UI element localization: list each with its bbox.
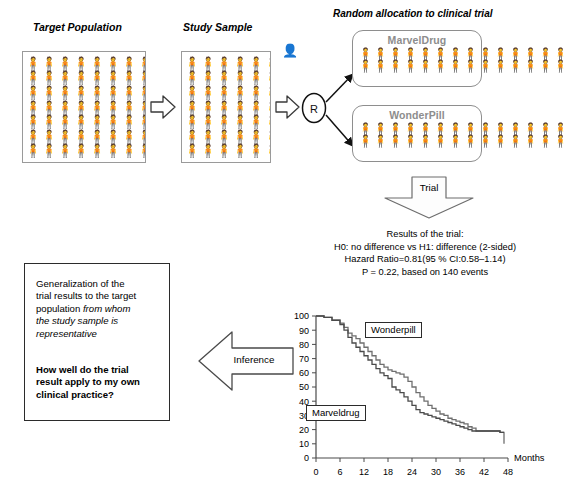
arrow-population-to-sample <box>150 92 178 122</box>
person-icon: 🧍 <box>358 60 373 72</box>
stray-figure-icon: 👤 <box>282 44 298 57</box>
person-icon: 🧍 <box>248 115 264 128</box>
person-icon: 🧍 <box>89 57 105 70</box>
x-tick-label: 30 <box>431 467 441 477</box>
person-icon: 🧍 <box>264 101 271 114</box>
person-icon: 🧍 <box>418 135 433 147</box>
person-icon: 🧍 <box>463 135 478 147</box>
gen-line-4: the study sample is <box>36 315 118 326</box>
y-tick-label: 0 <box>304 453 309 463</box>
person-icon: 🧍 <box>184 71 200 84</box>
population-row: 🧍🧍🧍🧍🧍🧍🧍🧍🧍🧍🧍🧍🧍 <box>25 57 143 70</box>
curve-annotation-marveldrug: Marveldrug <box>306 405 366 421</box>
person-icon: 🧍 <box>105 86 121 99</box>
person-icon: 🧍 <box>373 135 388 147</box>
person-icon: 🧍 <box>403 135 418 147</box>
arm-row: 🧍🧍🧍🧍🧍🧍🧍🧍🧍🧍🧍🧍🧍🧍 <box>358 135 476 147</box>
y-axis-ticks: 0102030405060708090100 <box>294 311 316 463</box>
person-icon: 🧍 <box>264 130 271 143</box>
person-icon: 🧍 <box>478 135 493 147</box>
gen-line-3-italic: from whom <box>83 303 130 314</box>
person-icon: 🧍 <box>137 86 146 99</box>
person-icon: 🧍 <box>25 101 41 114</box>
y-tick-label: 100 <box>294 311 309 321</box>
results-line-3: Hazard Ratio=0.81(95 % CI:0.58–1.14) <box>305 253 545 266</box>
y-tick-label: 50 <box>299 382 309 392</box>
y-tick-label: 80 <box>299 340 309 350</box>
person-icon: 🧍 <box>105 71 121 84</box>
person-icon: 🧍 <box>358 135 373 147</box>
person-icon: 🧍 <box>73 130 89 143</box>
x-tick-label: 36 <box>455 467 465 477</box>
person-icon: 🧍 <box>248 86 264 99</box>
person-icon: 🧍 <box>200 144 216 157</box>
person-icon: 🧍 <box>232 57 248 70</box>
person-icon: 🧍 <box>105 115 121 128</box>
person-icon: 🧍 <box>57 144 73 157</box>
person-icon: 🧍 <box>388 60 403 72</box>
person-icon: 🧍 <box>200 71 216 84</box>
person-icon: 🧍 <box>184 115 200 128</box>
person-icon: 🧍 <box>121 71 137 84</box>
person-icon: 🧍 <box>553 60 568 72</box>
person-icon: 🧍 <box>538 135 553 147</box>
person-icon: 🧍 <box>41 71 57 84</box>
population-row: 🧍🧍🧍🧍🧍🧍🧍🧍🧍🧍🧍🧍🧍 <box>25 144 143 157</box>
person-icon: 🧍 <box>433 60 448 72</box>
person-icon: 🧍 <box>232 71 248 84</box>
person-icon: 🧍 <box>216 144 232 157</box>
person-icon: 🧍 <box>137 115 146 128</box>
person-icon: 🧍 <box>388 135 403 147</box>
population-row: 🧍🧍🧍🧍🧍🧍🧍🧍🧍🧍🧍🧍🧍 <box>25 101 143 114</box>
person-icon: 🧍 <box>73 86 89 99</box>
generalization-question: How well do the trial result apply to my… <box>36 364 158 401</box>
person-icon: 🧍 <box>508 135 523 147</box>
person-icon: 🧍 <box>105 57 121 70</box>
population-row: 🧍🧍🧍🧍🧍🧍🧍🧍🧍🧍🧍🧍🧍 <box>184 71 268 84</box>
person-icon: 🧍 <box>216 71 232 84</box>
person-icon: 🧍 <box>105 144 121 157</box>
population-row: 🧍🧍🧍🧍🧍🧍🧍🧍🧍🧍🧍🧍🧍 <box>184 86 268 99</box>
person-icon: 🧍 <box>493 60 508 72</box>
person-icon: 🧍 <box>25 57 41 70</box>
survival-chart: 0102030405060708090100 0612182430364248 … <box>286 302 550 498</box>
gen-line-2: trial results to the target <box>36 290 136 301</box>
person-icon: 🧍 <box>538 60 553 72</box>
person-icon: 🧍 <box>41 144 57 157</box>
person-icon: 🧍 <box>57 130 73 143</box>
person-icon: 🧍 <box>184 130 200 143</box>
target-population-label: Target Population <box>33 21 122 33</box>
inference-arrow-label: Inference <box>215 354 293 365</box>
person-icon: 🧍 <box>41 101 57 114</box>
study-sample-box: 🧍🧍🧍🧍🧍🧍🧍🧍🧍🧍🧍🧍🧍🧍🧍🧍🧍🧍🧍🧍🧍🧍🧍🧍🧍🧍🧍🧍🧍🧍🧍🧍🧍🧍🧍🧍🧍🧍🧍🧍… <box>181 51 271 163</box>
person-icon: 🧍 <box>137 71 146 84</box>
person-icon: 🧍 <box>184 101 200 114</box>
person-icon: 🧍 <box>248 130 264 143</box>
results-block: Results of the trial: H0: no difference … <box>305 228 545 278</box>
person-icon: 🧍 <box>137 101 146 114</box>
person-icon: 🧍 <box>478 60 493 72</box>
person-icon: 🧍 <box>41 130 57 143</box>
person-icon: 🧍 <box>200 130 216 143</box>
x-tick-label: 24 <box>407 467 417 477</box>
person-icon: 🧍 <box>73 144 89 157</box>
arm-box-marveldrug: MarvelDrug 🧍🧍🧍🧍🧍🧍🧍🧍🧍🧍🧍🧍🧍🧍 🧍🧍🧍🧍🧍🧍🧍🧍🧍🧍🧍🧍🧍🧍 <box>352 30 482 87</box>
trial-arrow-label: Trial <box>382 182 476 193</box>
person-icon: 🧍 <box>57 57 73 70</box>
person-icon: 🧍 <box>463 60 478 72</box>
person-icon: 🧍 <box>57 115 73 128</box>
person-icon: 🧍 <box>232 144 248 157</box>
gen-line-1: Generalization of the <box>36 278 125 289</box>
person-icon: 🧍 <box>232 130 248 143</box>
person-icon: 🧍 <box>89 71 105 84</box>
x-tick-label: 48 <box>503 467 513 477</box>
person-icon: 🧍 <box>248 57 264 70</box>
person-icon: 🧍 <box>200 86 216 99</box>
person-icon: 🧍 <box>137 130 146 143</box>
person-icon: 🧍 <box>57 71 73 84</box>
person-icon: 🧍 <box>216 101 232 114</box>
person-icon: 🧍 <box>89 144 105 157</box>
person-icon: 🧍 <box>216 86 232 99</box>
person-icon: 🧍 <box>200 101 216 114</box>
population-row: 🧍🧍🧍🧍🧍🧍🧍🧍🧍🧍🧍🧍🧍 <box>25 115 143 128</box>
